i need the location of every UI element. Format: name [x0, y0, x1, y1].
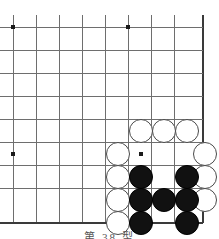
white-stone — [175, 119, 199, 143]
star-point — [139, 152, 143, 156]
black-stone — [129, 165, 153, 189]
white-stone — [106, 142, 130, 166]
star-point — [11, 25, 15, 29]
go-problem-figure: 第 38 型 — [0, 0, 219, 239]
black-stone — [175, 165, 199, 189]
star-point — [11, 152, 15, 156]
black-stone — [175, 188, 199, 212]
figure-caption: 第 38 型 — [0, 228, 219, 239]
star-point — [126, 25, 130, 29]
white-stone — [193, 142, 217, 166]
white-stone — [106, 188, 130, 212]
white-stone — [152, 119, 176, 143]
white-stone — [129, 119, 153, 143]
white-stone — [106, 165, 130, 189]
black-stone — [129, 188, 153, 212]
black-stone — [152, 188, 176, 212]
